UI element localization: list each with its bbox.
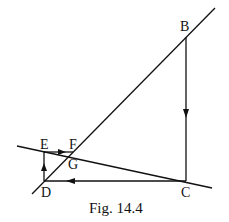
line-bd — [32, 8, 215, 194]
label-c: C — [181, 185, 190, 200]
label-e: E — [40, 137, 49, 152]
label-g: G — [68, 157, 78, 172]
arrow-right-icon — [58, 149, 66, 155]
cobweb-diagram: B C D E F G Fig. 14.4 — [0, 0, 229, 222]
label-d: D — [41, 185, 51, 200]
arrow-left-icon — [66, 178, 75, 184]
figure-caption: Fig. 14.4 — [89, 200, 143, 216]
label-f: F — [69, 137, 77, 152]
label-b: B — [180, 19, 189, 34]
arrow-down-icon — [183, 109, 189, 118]
arrow-up-icon — [41, 163, 47, 171]
